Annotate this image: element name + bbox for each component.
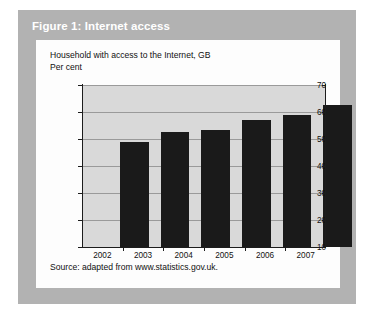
bar — [242, 120, 270, 247]
x-axis-tick-mark — [163, 247, 164, 251]
chart-title-line2: Per cent — [50, 62, 211, 74]
x-axis-tick-label: 2005 — [215, 251, 233, 260]
y-axis-line — [82, 84, 83, 248]
figure-header-title: Figure 1: Internet access — [32, 20, 170, 32]
x-axis-tick-mark — [123, 247, 124, 251]
x-axis-tick-mark — [285, 247, 286, 251]
x-axis-tick-label: 2006 — [256, 251, 274, 260]
plot-area — [82, 85, 326, 247]
x-axis-tick-label: 2004 — [175, 251, 193, 260]
x-axis-tick-mark — [204, 247, 205, 251]
plot-wrapper: 10203040506070 200220032004200520062007 — [50, 85, 326, 247]
bar — [323, 105, 351, 247]
y-axis-line-right — [325, 84, 326, 248]
chart-title-block: Household with access to the Internet, G… — [50, 50, 211, 73]
bar — [120, 142, 148, 247]
source-note: Source: adapted from www.statistics.gov.… — [50, 262, 218, 272]
x-axis-tick-label: 2002 — [93, 251, 111, 260]
figure-panel: Figure 1: Internet access Household with… — [18, 10, 356, 304]
bar — [161, 132, 189, 247]
x-axis-tick-label: 2003 — [134, 251, 152, 260]
chart-title-line1: Household with access to the Internet, G… — [50, 50, 211, 62]
bar — [201, 130, 229, 247]
chart-card: Household with access to the Internet, G… — [36, 40, 340, 288]
x-axis-tick-label: 2007 — [297, 251, 315, 260]
x-axis-tick-mark — [245, 247, 246, 251]
bars-group — [114, 85, 326, 247]
